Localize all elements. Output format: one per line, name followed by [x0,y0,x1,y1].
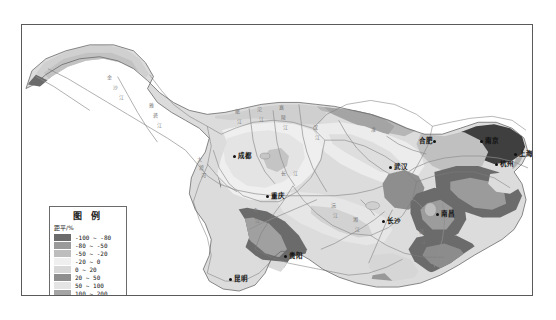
city-marker-icon [229,278,232,281]
map-feature-label: 江 [355,225,360,232]
legend-entry-label: 100 ~ 200 [75,290,108,297]
legend-entry: -100 ~ -80 [54,233,126,241]
map-feature-label: 沅 [331,201,336,208]
map-feature-label: 江 [293,169,298,176]
legend-entry: -80 ~ -50 [54,241,126,249]
map-feature-label: 湘 [353,215,358,222]
city-marker-icon [382,220,385,223]
legend-color-swatch [54,250,71,257]
city-name: 重庆 [271,192,285,200]
legend-entry-label: 50 ~ 100 [75,282,104,289]
legend-entry-label: -80 ~ -50 [75,242,108,249]
city-label: 贵阳 [284,253,303,260]
map-feature-label: 沙 [113,83,118,90]
city-marker-icon [495,163,498,166]
city-label: 成都 [233,153,252,160]
map-feature-label: 长 [281,169,286,176]
legend-color-swatch [54,274,71,281]
legend-entry: 20 ~ 50 [54,273,126,281]
map-feature-label: 江 [421,237,426,244]
city-name: 贵阳 [289,252,303,260]
map-feature-label: 赣 [419,227,424,234]
screenshot-root: 金沙江雅砻江岷江沱江嘉陵江汉江长江乌江沅江湘江赣江淮大渡河 成都重庆武汉合肥南京… [0,0,556,320]
city-name: 合肥 [419,137,433,145]
legend-entry-label: -50 ~ -20 [75,250,108,257]
city-marker-icon [266,195,269,198]
map-feature-label: 江 [259,115,264,122]
legend-entry: 100 ~ 200 [54,289,126,296]
legend-entry-label: -100 ~ -80 [75,234,111,241]
map-frame: 金沙江雅砻江岷江沱江嘉陵江汉江长江乌江沅江湘江赣江淮大渡河 成都重庆武汉合肥南京… [21,24,533,296]
city-label: 上海 [514,151,533,158]
legend-title: 图 例 [50,211,126,222]
map-feature-label: 砻 [153,111,158,118]
legend-entry-label: 0 ~ 20 [75,266,97,273]
legend-entry: -50 ~ -20 [54,249,126,257]
city-marker-icon [480,140,483,143]
map-feature-label: 江 [237,117,242,124]
city-label: 南京 [480,138,499,145]
city-marker-icon [433,140,436,143]
city-label: 合肥 [419,138,437,145]
city-marker-icon [233,155,236,158]
city-label: 杭州 [495,161,514,168]
city-name: 南京 [485,137,499,145]
city-name: 成都 [238,152,252,160]
legend-unit-label: 距平/% [54,224,126,232]
city-label: 长沙 [382,218,401,225]
city-label: 昆明 [229,276,248,283]
city-marker-icon [284,255,287,258]
map-feature-label: 乌 [253,206,258,213]
map-feature-label: 江 [333,211,338,218]
legend-color-swatch [54,282,71,289]
city-marker-icon [389,166,392,169]
legend-color-swatch [54,258,71,265]
city-label: 武汉 [389,164,408,171]
legend-entry-label: -20 ~ 0 [75,258,100,265]
map-feature-label: 江 [315,133,320,140]
city-marker-icon [436,213,439,216]
legend-entry: -20 ~ 0 [54,257,126,265]
city-label: 南昌 [436,211,455,218]
map-feature-label: 金 [107,73,112,80]
map-feature-label: 岷 [235,107,240,114]
city-label: 重庆 [266,193,285,200]
map-feature-label: 陵 [281,113,286,120]
city-name: 南昌 [441,210,455,218]
legend-color-swatch [54,234,71,241]
map-feature-label: 江 [119,93,124,100]
map-feature-label: 沱 [257,105,262,112]
legend-entries: -100 ~ -80-80 ~ -50-50 ~ -20-20 ~ 00 ~ 2… [54,233,126,296]
map-feature-label: 江 [283,123,288,130]
map-feature-label: 江 [255,216,260,223]
city-name: 武汉 [394,163,408,171]
map-feature-label: 嘉 [279,103,284,110]
legend-color-swatch [54,290,71,297]
map-feature-label: 雅 [149,101,154,108]
city-name: 长沙 [387,217,401,225]
legend-color-swatch [54,242,71,249]
map-feature-label: 大 [197,155,202,162]
legend-entry: 0 ~ 20 [54,265,126,273]
map-feature-label: 淮 [371,125,376,132]
map-feature-label: 汉 [313,123,318,130]
city-marker-icon [514,153,517,156]
map-legend: 图 例 距平/% -100 ~ -80-80 ~ -50-50 ~ -20-20… [49,206,127,296]
map-feature-label: 渡 [199,163,204,170]
map-feature-label: 江 [157,121,162,128]
city-name: 上海 [519,150,533,158]
map-feature-label: 河 [201,171,206,178]
legend-color-swatch [54,266,71,273]
legend-entry-label: 20 ~ 50 [75,274,100,281]
city-name: 昆明 [234,275,248,283]
city-name: 杭州 [500,160,514,168]
legend-entry: 50 ~ 100 [54,281,126,289]
